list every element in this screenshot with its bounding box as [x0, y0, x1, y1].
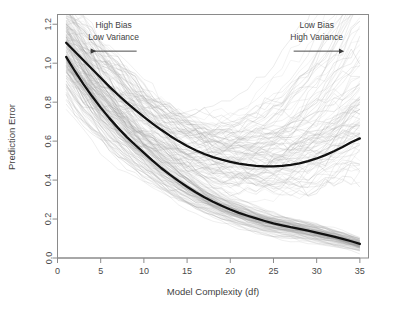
annotation-line-2: Low Variance	[88, 32, 139, 42]
x-tick-label: 25	[268, 266, 278, 276]
annotation-line-2: High Variance	[290, 32, 343, 42]
x-tick-label: 5	[98, 266, 103, 276]
y-tick-label: 0.6	[44, 135, 54, 148]
y-tick-label: 1.0	[43, 57, 53, 70]
x-tick-label: 10	[139, 266, 149, 276]
figure-container: 05101520253035 0.00.20.40.60.81.01.2 Mod…	[0, 0, 393, 309]
y-tick-label: 0.8	[44, 96, 54, 109]
y-tick-label: 1.2	[44, 18, 54, 31]
x-tick-label: 30	[312, 266, 322, 276]
x-tick-label: 35	[355, 266, 365, 276]
x-tick-label: 15	[182, 266, 192, 276]
annotation-line-1: Low Bias	[299, 20, 334, 30]
y-tick-label: 0.2	[44, 213, 54, 226]
x-tick-label: 0	[55, 266, 60, 276]
y-tick-label: 0.0	[44, 252, 54, 265]
prediction-error-chart: 05101520253035 0.00.20.40.60.81.01.2 Mod…	[0, 0, 393, 309]
y-tick-label: 0.4	[44, 174, 54, 187]
x-tick-label: 20	[225, 266, 235, 276]
y-axis-title: Prediction Error	[6, 104, 17, 170]
x-axis-title: Model Complexity (df)	[167, 286, 259, 297]
annotation-line-1: High Bias	[95, 20, 131, 30]
